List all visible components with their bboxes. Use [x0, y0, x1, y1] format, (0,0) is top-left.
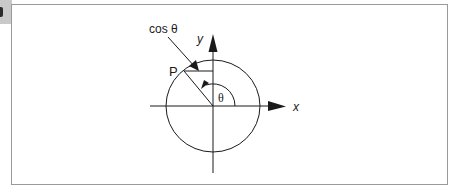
cos-theta-pointer-line	[168, 37, 195, 67]
y-axis-arrowhead-icon	[209, 34, 218, 52]
x-axis-arrowhead-icon	[268, 101, 286, 111]
theta-angle-label: θ	[218, 91, 224, 105]
y-axis-label: y	[196, 32, 204, 46]
point-P-label: P	[169, 64, 178, 79]
cos-theta-label: cos θ	[149, 22, 178, 36]
x-axis-label: x	[292, 100, 300, 114]
radius-line-OP	[184, 71, 213, 106]
unit-circle-diagram: cos θ P y x θ	[0, 0, 457, 192]
